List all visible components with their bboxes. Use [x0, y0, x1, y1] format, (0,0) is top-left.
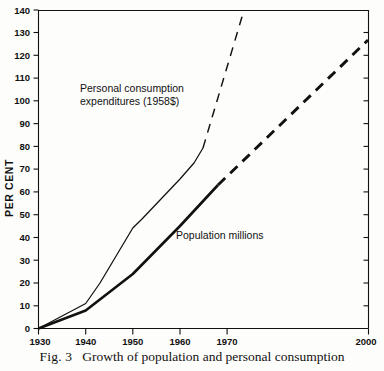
- figure-container: 0 10 20 30 40 50 60 70 80 90 100 110 120…: [0, 0, 384, 371]
- y-tick-label-40: 40: [19, 232, 30, 243]
- y-tick-label-80: 80: [19, 141, 30, 152]
- y-tick-label-90: 90: [19, 118, 30, 129]
- x-tick-label-1930: 1930: [29, 336, 50, 347]
- x-tick-label-1960: 1960: [169, 336, 190, 347]
- y-axis-title: PER CENT: [3, 159, 15, 217]
- x-tick-label-1940: 1940: [75, 336, 96, 347]
- y-tick-label-0: 0: [25, 323, 30, 334]
- y-axis-ticks-left: [34, 10, 39, 329]
- series-annotations: Personal consumption expenditures (1958$…: [80, 82, 264, 241]
- x-tick-label-2000: 2000: [355, 336, 376, 347]
- y-tick-label-120: 120: [14, 50, 30, 61]
- y-tick-label-20: 20: [19, 277, 30, 288]
- population-dashed-path: [218, 40, 368, 185]
- y-axis-tick-labels: 0 10 20 30 40 50 60 70 80 90 100 110 120…: [14, 5, 30, 334]
- figure-caption: Fig. 3Growth of population and personal …: [0, 349, 384, 365]
- series-personal-consumption: [39, 10, 245, 329]
- y-tick-label-110: 110: [15, 72, 30, 83]
- y-tick-label-30: 30: [19, 255, 30, 266]
- y-tick-label-140: 140: [14, 5, 30, 16]
- y-tick-label-100: 100: [14, 95, 30, 106]
- figure-number: Fig. 3: [40, 349, 73, 364]
- pce-label-line2: expenditures (1958$): [80, 95, 179, 107]
- x-tick-label-1950: 1950: [122, 336, 143, 347]
- y-tick-label-70: 70: [19, 163, 30, 174]
- x-axis-ticks: [39, 329, 369, 335]
- growth-chart: 0 10 20 30 40 50 60 70 80 90 100 110 120…: [0, 0, 384, 371]
- figure-caption-text: Growth of population and personal consum…: [82, 349, 344, 364]
- y-tick-label-50: 50: [19, 209, 30, 220]
- population-solid-path: [39, 185, 219, 329]
- y-tick-label-10: 10: [19, 300, 30, 311]
- chart-axes: [39, 10, 369, 329]
- y-tick-label-60: 60: [19, 186, 30, 197]
- population-label: Population millions: [176, 229, 264, 241]
- x-tick-label-1970: 1970: [217, 336, 238, 347]
- y-tick-label-130: 130: [14, 27, 30, 38]
- pce-label-line1: Personal consumption: [80, 82, 184, 94]
- pce-dashed-path: [203, 10, 244, 148]
- x-axis-tick-labels: 1930 1940 1950 1960 1970 2000: [29, 336, 376, 347]
- y-axis-ticks-right: [364, 33, 369, 306]
